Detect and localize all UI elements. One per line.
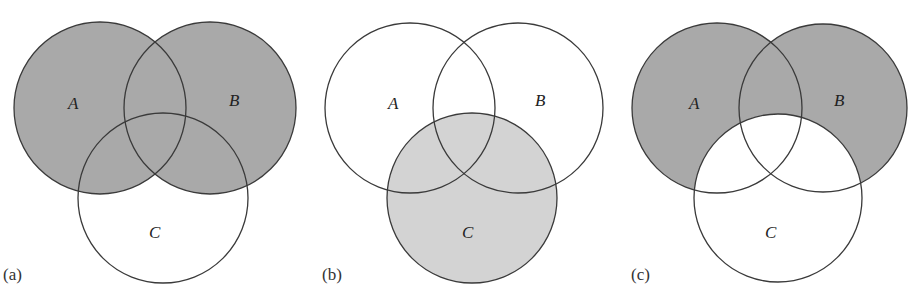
set-label-a: A — [688, 94, 700, 113]
panel-label-b: (b) — [322, 265, 342, 284]
panel-label-a: (a) — [3, 265, 22, 284]
set-label-b: B — [535, 91, 546, 110]
set-label-c: C — [462, 223, 474, 242]
set-label-a: A — [387, 94, 399, 113]
venn-panel-b: A B C (b) — [322, 23, 603, 284]
set-label-c: C — [149, 223, 161, 242]
set-b-minus-c-fill — [739, 24, 907, 192]
set-label-a: A — [67, 94, 79, 113]
venn-panel-c: A B C (c) — [631, 23, 907, 284]
venn-figure: A B C (a) A B C (b) A B C (c) — [0, 0, 923, 301]
venn-panel-a: A B C (a) — [3, 22, 296, 284]
panel-label-c: (c) — [631, 265, 650, 284]
set-c-fill — [387, 113, 557, 283]
set-label-c: C — [765, 223, 777, 242]
set-label-b: B — [834, 91, 845, 110]
set-label-b: B — [229, 91, 240, 110]
set-b-fill — [124, 22, 296, 194]
